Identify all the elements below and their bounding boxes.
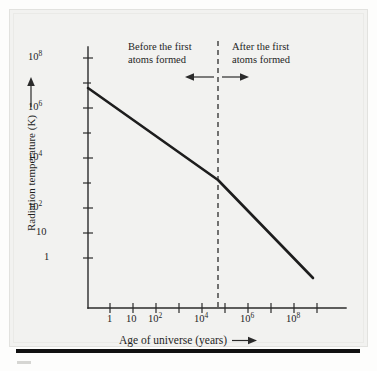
bottom-divider-rule	[16, 349, 360, 353]
x-tick-label-1: 1	[107, 314, 112, 325]
y-tick-label-1: 1	[44, 252, 49, 263]
x-tick-label-1e6: 106	[240, 314, 254, 325]
after-annotation-arrow-icon	[222, 73, 249, 81]
x-tick-label-1e8: 108	[286, 314, 300, 325]
x-tick-label-10: 10	[126, 314, 137, 325]
y-axis-minor-ticks	[83, 83, 91, 183]
y-axis-title-wrapper: Radiation temperature (K)	[22, 78, 40, 268]
figure-root: 108 106 104 102 10 1 1 10 102 104 106 10…	[0, 0, 377, 371]
before-annotation-arrow-icon	[185, 73, 214, 81]
annotation-before-atoms-formed: Before the first atoms formed	[128, 40, 192, 66]
annotation-before-line1: Before the first	[128, 40, 192, 53]
y-axis-title: Radiation temperature (K)	[25, 115, 37, 231]
annotation-after-line1: After the first	[232, 40, 290, 53]
x-tick-label-1e2: 102	[148, 314, 162, 325]
x-axis-arrow-icon	[232, 335, 258, 347]
y-tick-label-1e8: 108	[28, 52, 42, 63]
annotation-after-line2: atoms formed	[232, 53, 290, 66]
x-axis-title: Age of universe (years)	[119, 334, 227, 346]
annotation-after-atoms-formed: After the first atoms formed	[232, 40, 290, 66]
x-axis-title-row: Age of universe (years)	[0, 334, 377, 347]
annotation-before-line2: atoms formed	[128, 53, 192, 66]
radiation-temperature-curve	[88, 88, 313, 278]
page-artifact-mark	[17, 361, 31, 364]
x-tick-label-1e4: 104	[194, 314, 208, 325]
